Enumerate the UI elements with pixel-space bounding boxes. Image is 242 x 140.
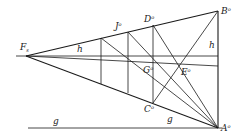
label-j: Jo bbox=[113, 21, 122, 31]
diag-j-to-a bbox=[128, 32, 218, 128]
label-g-left: g bbox=[53, 116, 59, 126]
label-e: Eo bbox=[180, 67, 191, 77]
label-a: Ao bbox=[220, 123, 231, 133]
label-d: Do bbox=[143, 14, 154, 24]
label-h-left: h bbox=[77, 44, 83, 54]
line-fs-mid bbox=[26, 56, 218, 66]
label-b: Bo bbox=[220, 6, 231, 16]
diag-c-to-b bbox=[153, 11, 218, 103]
label-h-right: h bbox=[209, 40, 215, 50]
label-g-right: g bbox=[167, 114, 173, 124]
label-fs: Fs bbox=[19, 42, 29, 53]
label-g: Go bbox=[143, 65, 153, 75]
label-c: Co bbox=[144, 104, 154, 114]
line-fs-b bbox=[26, 11, 218, 56]
perspective-diagram: Fs Bo Ao Do Co Jo Go Eo h h g g bbox=[0, 0, 242, 140]
diag-101-to-a bbox=[101, 38, 218, 128]
